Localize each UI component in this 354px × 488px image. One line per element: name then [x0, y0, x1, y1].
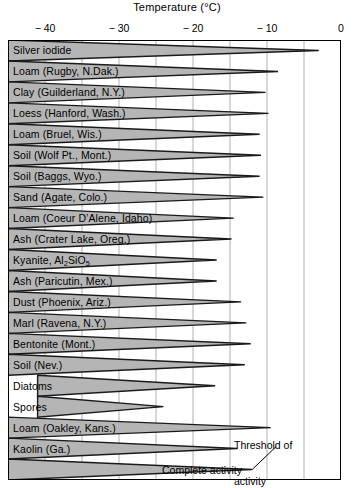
x-tick-label-4: 0 — [338, 22, 344, 34]
row-label-0: Silver iodide — [13, 45, 72, 56]
row-label-6: Soil (Baggs, Wyo.) — [13, 171, 102, 182]
x-tick-label-1: − 30 — [109, 22, 130, 34]
row-label-7: Sand (Agate, Colo.) — [13, 192, 107, 203]
row-label-12: Dust (Phoenix, Ariz.) — [13, 297, 111, 308]
row-label-1: Loam (Rugby, N.Dak.) — [13, 66, 119, 77]
row-label-9: Ash (Crater Lake, Oreg.) — [13, 234, 130, 245]
x-tick-label-3: − 10 — [257, 22, 278, 34]
row-label-19: Kaolin (Ga.) — [13, 444, 70, 455]
annotation-threshold-line1: Threshold of — [234, 439, 292, 451]
row-label-15: Soil (Nev.) — [13, 360, 62, 371]
row-label-11: Ash (Paricutin, Mex.) — [13, 276, 113, 287]
row-label-13: Marl (Ravena, N.Y.) — [13, 318, 106, 329]
x-axis-tick-labels: − 40− 30− 20− 100 — [0, 22, 354, 36]
x-tick-label-0: − 40 — [35, 22, 56, 34]
x-axis-title: Temperature (°C) — [0, 1, 354, 13]
annotation-threshold-of-activity: Threshold of activity — [234, 415, 292, 488]
row-label-4: Loam (Bruel, Wis.) — [13, 129, 102, 140]
row-label-18: Loam (Oakley, Kans.) — [13, 423, 116, 434]
row-label-8: Loam (Coeur D’Alene, Idaho) — [13, 213, 152, 224]
x-tick-label-2: − 20 — [183, 22, 204, 34]
row-label-2: Clay (Guilderland, N.Y.) — [13, 87, 125, 98]
row-label-3: Loess (Hanford, Wash.) — [13, 108, 126, 119]
chart-root: Temperature (°C) − 40− 30− 20− 100 Silve… — [0, 0, 354, 488]
annotation-threshold-line2: activity — [234, 475, 292, 487]
row-label-16: Diatoms — [13, 381, 52, 392]
wedge-row-16 — [38, 375, 216, 396]
annotation-complete-activity: Complete activity — [162, 464, 242, 476]
wedge-row-17 — [38, 396, 164, 417]
plot-area: Silver iodideLoam (Rugby, N.Dak.)Clay (G… — [8, 40, 341, 480]
row-label-10: Kyanite, Al2SiO5 — [13, 255, 90, 266]
row-label-5: Soil (Wolf Pt., Mont.) — [13, 150, 111, 161]
row-label-17: Spores — [13, 402, 47, 413]
row-label-14: Bentonite (Mont.) — [13, 339, 95, 350]
